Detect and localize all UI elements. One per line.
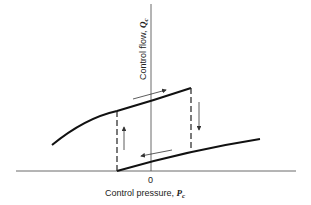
origin-label: 0 — [148, 175, 153, 185]
arrow-left-icon — [141, 150, 172, 156]
y-axis-label: Control flow, Qc — [138, 18, 150, 80]
hysteresis-diagram: 0 Control pressure, Pc Control flow, Qc — [0, 0, 311, 205]
upper-branch-curve — [52, 88, 191, 145]
lower-branch-curve — [117, 139, 260, 171]
x-axis-label: Control pressure, Pc — [105, 188, 185, 200]
